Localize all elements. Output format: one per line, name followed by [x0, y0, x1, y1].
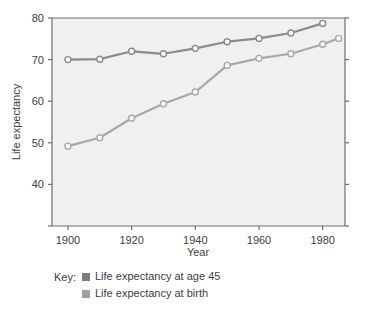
data-point — [97, 135, 103, 141]
legend-item-birth: Life expectancy at birth — [0, 285, 365, 302]
x-tick-label: 1980 — [310, 234, 334, 246]
life-expectancy-line-chart: 4050607080 19001920194019601980 Year Lif… — [0, 0, 365, 310]
y-axis-title: Life expectancy — [10, 83, 22, 160]
data-point — [224, 39, 230, 45]
y-tick-label: 50 — [32, 137, 44, 149]
x-tick-label: 1940 — [183, 234, 207, 246]
y-tick-label: 80 — [32, 12, 44, 24]
y-axis-tick-labels: 4050607080 — [32, 12, 44, 190]
data-point — [224, 62, 230, 68]
y-tick-label: 60 — [32, 95, 44, 107]
x-tick-label: 1900 — [56, 234, 80, 246]
data-point — [256, 55, 262, 61]
data-point — [129, 115, 135, 121]
y-tick-label: 40 — [32, 178, 44, 190]
data-point — [65, 57, 71, 63]
legend-item-age45: Key: Life expectancy at age 45 — [0, 268, 365, 285]
chart-figure: 4050607080 19001920194019601980 Year Lif… — [0, 0, 365, 310]
legend-label-birth: Life expectancy at birth — [95, 287, 208, 300]
x-axis-title: Year — [187, 246, 210, 258]
legend-swatch-age45 — [82, 273, 90, 281]
data-point — [65, 143, 71, 149]
data-point — [288, 51, 294, 57]
data-point — [288, 30, 294, 36]
data-point — [97, 56, 103, 62]
y-tick-label: 70 — [32, 54, 44, 66]
data-point — [129, 48, 135, 54]
x-tick-label: 1960 — [247, 234, 271, 246]
data-point — [336, 35, 342, 41]
data-point — [320, 41, 326, 47]
data-point — [192, 45, 198, 51]
legend-key-label: Key: — [0, 271, 82, 283]
legend-swatch-birth — [82, 290, 90, 298]
x-tick-label: 1920 — [119, 234, 143, 246]
data-point — [160, 51, 166, 57]
data-point — [320, 20, 326, 26]
chart-legend: Key: Life expectancy at age 45 Life expe… — [0, 268, 365, 302]
x-axis-tick-labels: 19001920194019601980 — [56, 234, 335, 246]
data-point — [192, 89, 198, 95]
legend-label-age45: Life expectancy at age 45 — [95, 270, 220, 283]
data-point — [160, 101, 166, 107]
data-point — [256, 35, 262, 41]
